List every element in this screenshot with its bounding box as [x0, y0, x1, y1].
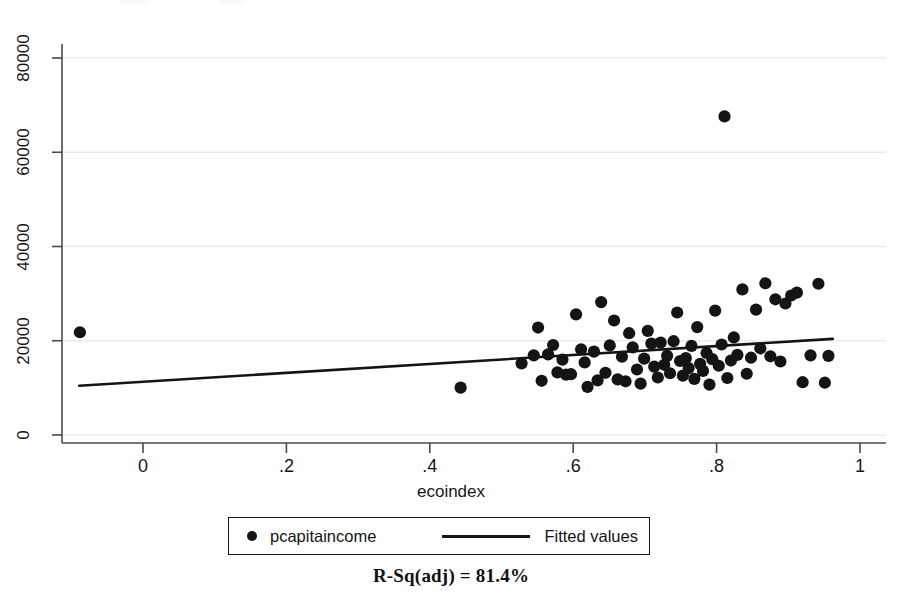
data-point [627, 341, 639, 353]
data-point [791, 287, 803, 299]
data-point [642, 325, 654, 337]
data-point [716, 338, 728, 350]
data-point [655, 337, 667, 349]
data-point [588, 345, 600, 357]
data-point [819, 377, 831, 389]
data-point [634, 378, 646, 390]
legend-label-pcapitaincome: pcapitaincome [270, 527, 376, 546]
data-point [515, 357, 527, 369]
x-axis-ticks [143, 443, 860, 453]
data-point [565, 368, 577, 380]
data-point [741, 368, 753, 380]
data-point [599, 367, 611, 379]
legend-entry-pcapitaincome: pcapitaincome [247, 527, 376, 546]
y-tick-label-40000: 40000 [14, 220, 34, 273]
x-tick-label-.4: .4 [400, 456, 460, 477]
data-point [703, 378, 715, 390]
data-point [797, 376, 809, 388]
data-point [570, 308, 582, 320]
data-point [455, 382, 467, 394]
data-point [74, 326, 86, 338]
data-point [750, 304, 762, 316]
data-point [631, 363, 643, 375]
legend-label-fitted-values: Fitted values [544, 527, 638, 546]
data-point [697, 365, 709, 377]
legend-line-marker-icon [442, 535, 530, 538]
x-tick-label-.8: .8 [687, 456, 747, 477]
scatter-plot-figure: 020000400006000080000 0.2.4.6.81 ecoinde… [0, 0, 902, 609]
data-point [745, 352, 757, 364]
data-point [774, 355, 786, 367]
data-point [759, 277, 771, 289]
y-axis-ticks [52, 58, 62, 435]
data-point [528, 349, 540, 361]
legend-dot-marker-icon [247, 531, 257, 541]
data-point [536, 375, 548, 387]
data-point [664, 367, 676, 379]
legend: pcapitaincome Fitted values [228, 517, 650, 555]
data-point [812, 278, 824, 290]
data-point [619, 375, 631, 387]
data-point [691, 321, 703, 333]
data-point [623, 327, 635, 339]
data-point [579, 356, 591, 368]
data-point [616, 351, 628, 363]
data-point [754, 342, 766, 354]
data-point [718, 110, 730, 122]
data-point [604, 339, 616, 351]
data-point [532, 321, 544, 333]
data-point [685, 340, 697, 352]
data-point [608, 314, 620, 326]
data-point [581, 381, 593, 393]
data-point [822, 350, 834, 362]
data-point [728, 331, 740, 343]
data-point [575, 343, 587, 355]
data-point [709, 304, 721, 316]
y-tick-label-0: 0 [14, 430, 34, 441]
data-point [804, 349, 816, 361]
data-point [667, 335, 679, 347]
data-point [595, 296, 607, 308]
axis-lines [62, 44, 886, 443]
data-point [556, 354, 568, 366]
x-tick-label-.2: .2 [256, 456, 316, 477]
x-tick-label-0: 0 [113, 456, 173, 477]
data-point [638, 353, 650, 365]
data-point [736, 283, 748, 295]
data-point [683, 362, 695, 374]
data-point [731, 349, 743, 361]
y-tick-label-20000: 20000 [14, 315, 34, 368]
x-tick-label-.6: .6 [543, 456, 603, 477]
data-point [721, 372, 733, 384]
data-point [671, 306, 683, 318]
data-point [713, 360, 725, 372]
data-point [547, 339, 559, 351]
data-point [661, 350, 673, 362]
y-tick-label-60000: 60000 [14, 126, 34, 179]
legend-entry-fitted-values: Fitted values [442, 527, 638, 546]
y-tick-label-80000: 80000 [14, 32, 34, 85]
r-squared-caption: R-Sq(adj) = 81.4% [0, 565, 902, 587]
data-point [652, 371, 664, 383]
x-tick-label-1: 1 [830, 456, 890, 477]
x-axis-title: ecoindex [0, 482, 902, 502]
